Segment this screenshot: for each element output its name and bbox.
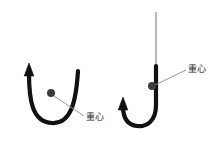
diagram-svg: 重心 重心: [0, 0, 221, 142]
left-center-of-gravity-dot: [47, 89, 55, 97]
figure-canvas: 重心 重心: [0, 0, 221, 142]
right-center-of-gravity-label: 重心: [188, 63, 206, 74]
left-center-of-gravity-label: 重心: [86, 111, 104, 122]
right-center-of-gravity-dot: [148, 82, 156, 90]
